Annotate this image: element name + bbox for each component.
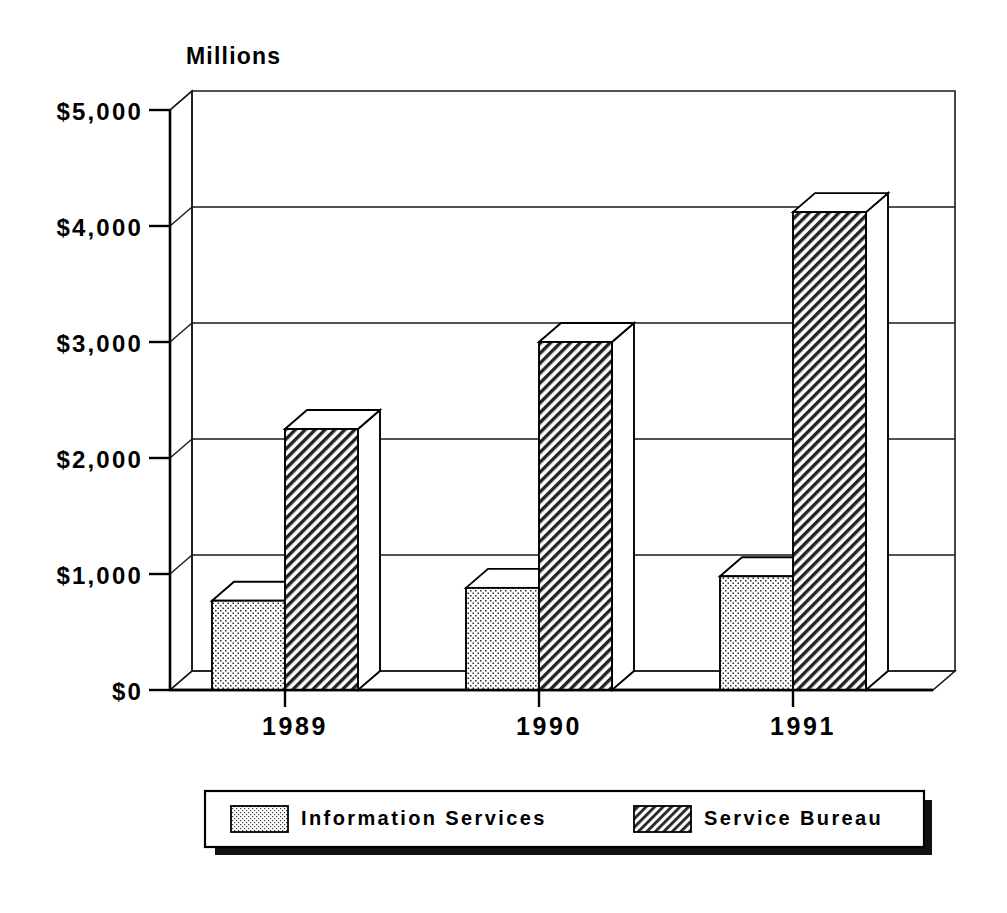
legend-label-information-services: Information Services <box>301 807 547 829</box>
x-tick-label-1990: 1990 <box>516 712 582 740</box>
y-tick-label-1000: $1,000 <box>56 562 143 589</box>
y-tick-label-4000: $4,000 <box>56 214 143 241</box>
y-axis-ticks <box>149 110 170 690</box>
y-tick-label-2000: $2,000 <box>56 446 143 473</box>
legend: Information Services Service Bureau <box>205 791 932 855</box>
legend-swatch-dots <box>231 806 288 832</box>
bar-service-bureau-1989[interactable] <box>285 410 380 690</box>
chart-canvas: $0 $1,000 $2,000 $3,000 $4,000 $5,000 Mi… <box>0 0 1007 913</box>
legend-item-information-services[interactable]: Information Services <box>231 806 547 832</box>
plot-left-wall <box>170 91 192 690</box>
bar-group-1991 <box>720 193 888 690</box>
bar-service-bureau-1991[interactable] <box>793 193 888 690</box>
bar-service-bureau-1990[interactable] <box>539 323 634 690</box>
bar-chart-figure: $0 $1,000 $2,000 $3,000 $4,000 $5,000 Mi… <box>0 0 1007 913</box>
y-tick-label-3000: $3,000 <box>56 330 143 357</box>
legend-label-service-bureau: Service Bureau <box>704 807 883 829</box>
bar-group-1990 <box>466 323 634 690</box>
y-tick-label-5000: $5,000 <box>56 98 143 125</box>
x-tick-label-1991: 1991 <box>770 712 836 740</box>
y-tick-label-0: $0 <box>112 678 143 705</box>
legend-item-service-bureau[interactable]: Service Bureau <box>634 806 883 832</box>
x-tick-label-1989: 1989 <box>262 712 328 740</box>
legend-swatch-hatch <box>634 806 691 832</box>
bar-group-1989 <box>212 410 380 690</box>
y-tick-labels: $0 $1,000 $2,000 $3,000 $4,000 $5,000 <box>56 98 143 705</box>
x-axis-ticks <box>285 690 793 707</box>
x-tick-labels: 1989 1990 1991 <box>262 712 836 740</box>
y-axis-unit-label: Millions <box>186 43 281 69</box>
